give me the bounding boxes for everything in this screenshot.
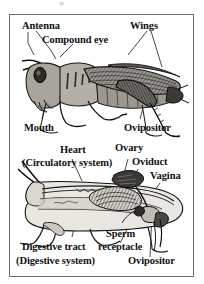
- figure-frame: Antenna Wings Compound eye Mouth Oviposi…: [9, 14, 194, 277]
- label-circulatory-system: (Circulatory system): [22, 158, 112, 169]
- label-digestive-system: (Digestive system): [16, 256, 95, 267]
- panel-internal-anatomy: Heart (Circulatory system) Ovary Oviduct…: [10, 15, 193, 276]
- label-sperm-receptacle: receptacle: [98, 242, 142, 253]
- ovary-upper-cluster: [112, 171, 144, 188]
- label-ovary: Ovary: [115, 143, 143, 154]
- label-oviduct: Oviduct: [132, 157, 167, 168]
- scan-artifact-speck: [59, 2, 64, 5]
- label-heart: Heart: [60, 145, 86, 156]
- label-sperm: Sperm: [106, 229, 135, 240]
- ovipositor-internal-shape: [154, 212, 168, 251]
- label-vagina: Vagina: [150, 171, 181, 182]
- label-ovipositor-internal: Ovipositor: [128, 256, 175, 267]
- label-digestive-tract: Digestive tract: [22, 242, 86, 253]
